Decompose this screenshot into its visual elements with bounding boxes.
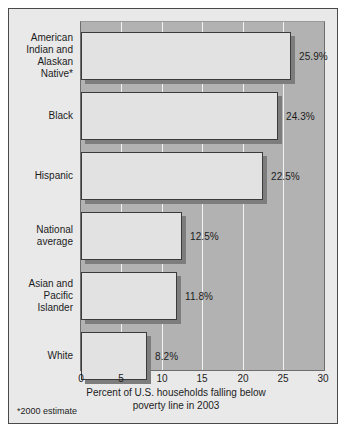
category-label-line: Native* bbox=[7, 68, 73, 80]
category-label-line: American bbox=[7, 32, 73, 44]
category-label-asian-and-pacific-islander: Asian and Pacific Islander bbox=[7, 278, 73, 314]
category-label-line: Black bbox=[7, 110, 73, 122]
category-label-national-average: National average bbox=[7, 224, 73, 248]
category-label-line: Islander bbox=[7, 302, 73, 314]
bar-value-label: 8.2% bbox=[155, 351, 178, 362]
category-label-line: Pacific bbox=[7, 290, 73, 302]
category-label-white: White bbox=[7, 350, 73, 362]
chart-figure: 25.9% 24.3% 22.5% 12.5% 11.8% bbox=[8, 8, 338, 424]
xtick-label-0: 0 bbox=[78, 373, 84, 384]
bar-row: 22.5% bbox=[81, 152, 324, 200]
x-axis-title: Percent of U.S. households falling below… bbox=[51, 387, 301, 412]
footnote: *2000 estimate bbox=[17, 406, 77, 416]
category-label-line: average bbox=[7, 236, 73, 248]
bar-white[interactable] bbox=[81, 332, 147, 380]
category-label-line: National bbox=[7, 224, 73, 236]
plot-area: 25.9% 24.3% 22.5% 12.5% 11.8% bbox=[80, 21, 325, 371]
xtick-label-10: 10 bbox=[156, 373, 167, 384]
category-label-line: Indian and bbox=[7, 44, 73, 56]
bar-american-indian-and-alaskan-native[interactable] bbox=[81, 32, 291, 80]
bar-row: 12.5% bbox=[81, 212, 324, 260]
bar-hispanic[interactable] bbox=[81, 152, 263, 200]
category-label-line: Asian and bbox=[7, 278, 73, 290]
category-label-black: Black bbox=[7, 110, 73, 122]
bar-asian-and-pacific-islander[interactable] bbox=[81, 272, 177, 320]
bar-value-label: 22.5% bbox=[271, 171, 300, 182]
category-label-line: Alaskan bbox=[7, 56, 73, 68]
xtick-label-5: 5 bbox=[118, 373, 124, 384]
bar-national-average[interactable] bbox=[81, 212, 182, 260]
xtick-label-20: 20 bbox=[237, 373, 248, 384]
x-axis-title-line2: poverty line in 2003 bbox=[51, 400, 301, 413]
bar-black[interactable] bbox=[81, 92, 278, 140]
xtick-label-25: 25 bbox=[277, 373, 288, 384]
bar-value-label: 11.8% bbox=[185, 291, 213, 302]
bar-value-label: 24.3% bbox=[286, 111, 315, 122]
x-axis-title-line1: Percent of U.S. households falling below bbox=[51, 387, 301, 400]
xtick-label-30: 30 bbox=[317, 373, 328, 384]
category-label-american-indian-and-alaskan-native: American Indian and Alaskan Native* bbox=[7, 32, 73, 80]
category-label-line: Hispanic bbox=[7, 170, 73, 182]
category-label-line: White bbox=[7, 350, 73, 362]
bar-row: 11.8% bbox=[81, 272, 324, 320]
bar-value-label: 12.5% bbox=[190, 231, 219, 242]
xtick-label-15: 15 bbox=[196, 373, 207, 384]
bar-row: 24.3% bbox=[81, 92, 324, 140]
category-label-hispanic: Hispanic bbox=[7, 170, 73, 182]
bar-value-label: 25.9% bbox=[299, 51, 328, 62]
bar-row: 25.9% bbox=[81, 32, 324, 80]
